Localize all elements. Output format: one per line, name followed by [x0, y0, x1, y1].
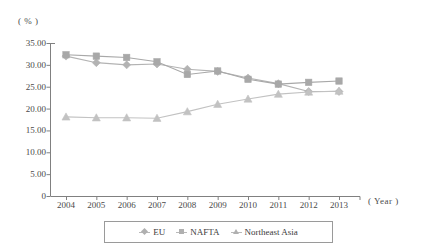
- line-chart: ( % ) ( Year ) 05.0010.0015.0020.0025.00…: [0, 0, 426, 248]
- y-tick-label: 30.00: [0, 60, 46, 70]
- triangle-marker-icon: [231, 232, 242, 233]
- y-tick-label: 35.00: [0, 38, 46, 48]
- series-northeast-asia: [62, 87, 343, 121]
- x-tick-label: 2013: [319, 200, 359, 210]
- data-point-marker: [336, 78, 342, 84]
- y-tick-label: 20.00: [0, 104, 46, 114]
- data-point-marker: [93, 53, 99, 59]
- data-point-marker: [184, 71, 190, 77]
- square-marker-icon: [176, 232, 187, 233]
- y-tick-label: 15.00: [0, 125, 46, 135]
- x-axis-unit-label: ( Year ): [368, 196, 399, 206]
- series-line: [66, 56, 339, 91]
- legend-label-eu: EU: [153, 227, 165, 237]
- legend-item-northeast-asia[interactable]: Northeast Asia: [231, 227, 298, 237]
- data-point-marker: [214, 68, 220, 74]
- data-point-marker: [305, 79, 311, 85]
- legend-item-nafta[interactable]: NAFTA: [176, 227, 219, 237]
- y-axis-unit-label: ( % ): [18, 16, 39, 26]
- y-tick-label: 10.00: [0, 147, 46, 157]
- plot-area: [50, 43, 355, 196]
- data-point-marker: [245, 76, 251, 82]
- data-point-marker: [92, 59, 100, 67]
- y-tick-label: 25.00: [0, 82, 46, 92]
- data-point-marker: [154, 59, 160, 65]
- legend-label-northeast-asia: Northeast Asia: [245, 227, 298, 237]
- series-line: [66, 91, 339, 118]
- series-line: [66, 55, 339, 84]
- data-point-marker: [63, 52, 69, 58]
- data-point-marker: [123, 61, 131, 69]
- data-point-marker: [123, 54, 129, 60]
- legend-label-nafta: NAFTA: [190, 227, 219, 237]
- diamond-marker-icon: [139, 232, 150, 233]
- chart-legend: EU NAFTA Northeast Asia: [104, 221, 333, 243]
- legend-item-eu[interactable]: EU: [139, 227, 165, 237]
- y-tick-label: 5.00: [0, 169, 46, 179]
- y-tick-label: 0: [0, 191, 46, 201]
- series-eu: [62, 52, 343, 95]
- series-nafta: [63, 52, 342, 88]
- data-point-marker: [275, 81, 281, 87]
